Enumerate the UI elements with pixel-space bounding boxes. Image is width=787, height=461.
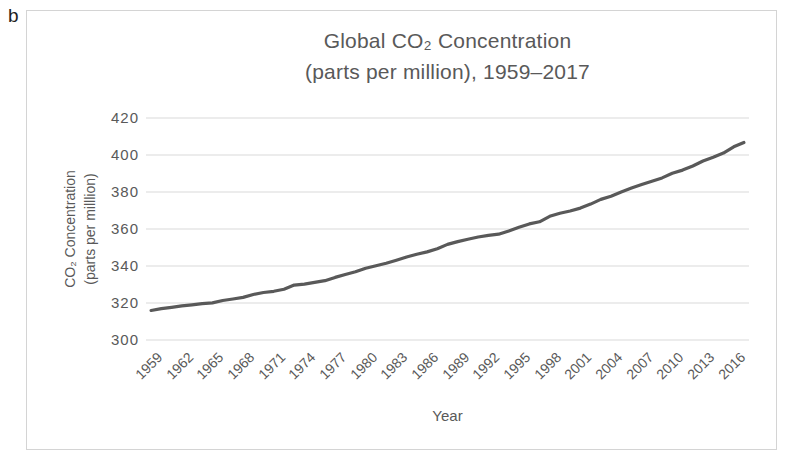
x-axis-title: Year <box>146 407 749 424</box>
chart-frame: Global CO₂ Concentration (parts per mill… <box>26 10 777 450</box>
figure-label: b <box>8 5 19 27</box>
co2-line <box>151 143 744 311</box>
